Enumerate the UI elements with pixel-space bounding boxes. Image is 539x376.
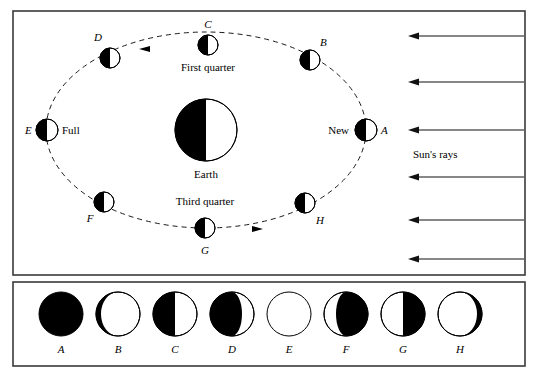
orbit-direction-arrow-top (139, 46, 150, 52)
sun-ray-4 (408, 174, 524, 181)
phase-key-moon-D (210, 292, 254, 336)
orbit-moon-D (100, 48, 120, 68)
sun-ray-6 (408, 256, 524, 263)
phase-key-label-H: H (455, 343, 465, 355)
phase-key-label-C: C (171, 343, 179, 355)
sun-ray-1 (408, 33, 524, 40)
phase-key-label-B: B (115, 343, 122, 355)
orbit-moon-C (198, 35, 218, 55)
orbit-moon-F (94, 192, 114, 212)
phase-label-first-quarter: First quarter (181, 61, 235, 73)
phase-key-label-F: F (342, 343, 350, 355)
phase-key-moon-E (267, 292, 311, 336)
sun-ray-3 (408, 127, 524, 134)
phase-label-full: Full (62, 124, 80, 136)
phase-key-moon-C (153, 292, 197, 336)
figure-canvas: Earth A New B C First quarter (0, 0, 539, 376)
phase-key-label-A: A (57, 343, 65, 355)
phase-key-moon-G (381, 292, 425, 336)
sun-ray-5 (408, 217, 524, 224)
orbit-moon-label-A: A (380, 124, 388, 136)
phase-label-new: New (328, 124, 349, 136)
moon-phases-figure: Earth A New B C First quarter (0, 0, 539, 376)
orbit-moon-G (195, 218, 215, 238)
orbit-moon-H (295, 193, 315, 213)
orbit-moon-E (36, 119, 58, 141)
orbit-moon-B (300, 50, 320, 70)
orbit-moon-label-E: E (24, 124, 32, 136)
phase-key-moon-B (96, 292, 140, 336)
phase-label-third-quarter: Third quarter (176, 195, 235, 207)
orbit-moon-label-D: D (93, 31, 102, 43)
orbit-panel-border (13, 11, 525, 275)
earth-body (175, 99, 237, 161)
orbit-moon-label-H: H (315, 214, 325, 226)
orbit-moon-label-G: G (201, 244, 209, 256)
orbit-moon-label-F: F (86, 212, 94, 224)
orbit-moon-label-B: B (320, 36, 327, 48)
orbit-moon-label-C: C (204, 18, 212, 30)
phase-key-moon-F (324, 292, 368, 336)
phase-key-label-E: E (285, 343, 293, 355)
orbit-moon-A (355, 119, 377, 141)
orbit-direction-arrow-bottom (252, 226, 263, 232)
suns-rays-label: Sun's rays (413, 148, 457, 160)
phase-key-label-G: G (399, 343, 407, 355)
sun-ray-2 (408, 79, 524, 86)
phase-key-label-D: D (227, 343, 236, 355)
phase-key-moon-H (438, 292, 482, 336)
phase-key-moon-A (39, 292, 83, 336)
earth-label: Earth (194, 168, 218, 180)
